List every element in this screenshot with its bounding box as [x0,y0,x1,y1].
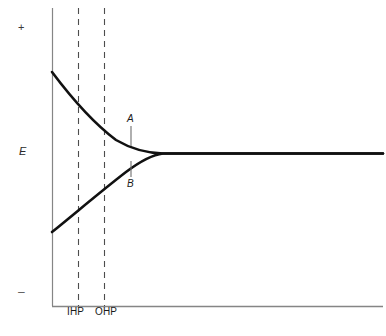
plot-canvas [0,0,386,336]
y-axis-label: E [19,145,26,157]
curve-a-label: A [127,113,134,124]
curve-a-upper [52,72,383,154]
ohp-axis-label: OHP [95,306,117,317]
curve-b-label: B [127,178,134,189]
curve-b-lower [52,154,383,233]
double-layer-potential-figure: + – E A B IHP OHP [0,0,386,336]
y-axis-negative-sign: – [18,286,25,298]
ihp-axis-label: IHP [67,306,84,317]
y-axis-positive-sign: + [18,22,24,33]
